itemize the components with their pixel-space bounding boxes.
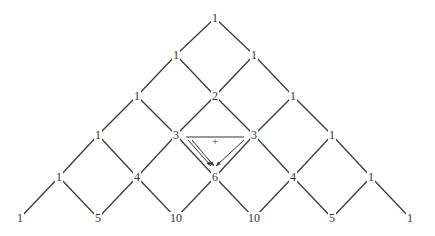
lattice-edge (98, 135, 137, 177)
sum-arrow (188, 140, 211, 166)
plus-operator: + (212, 135, 218, 147)
triangle-number: 4 (133, 171, 141, 183)
pascal-triangle-diagram: 11112113311464115101051 + (0, 0, 435, 236)
triangle-number: 1 (250, 49, 258, 61)
triangle-number: 1 (289, 90, 297, 102)
triangle-number: 1 (406, 212, 414, 224)
lattice-edge (332, 177, 371, 218)
lattice-edge (254, 135, 293, 177)
lattice-edge (59, 135, 98, 177)
lattice-edge (293, 135, 332, 177)
triangle-lattice-lines (0, 0, 435, 236)
triangle-number: 6 (211, 171, 219, 183)
lattice-edge (137, 96, 176, 135)
sum-arrow (216, 140, 244, 166)
triangle-number: 1 (16, 212, 24, 224)
lattice-edge (215, 135, 254, 177)
triangle-number: 10 (169, 212, 183, 224)
lattice-edge (98, 96, 137, 135)
lattice-edge (20, 177, 59, 218)
triangle-number: 1 (367, 171, 375, 183)
lattice-edge (293, 96, 332, 135)
lattice-edge (59, 177, 98, 218)
lattice-edge (98, 177, 137, 218)
lattice-edge (293, 177, 332, 218)
triangle-number: 5 (94, 212, 102, 224)
lattice-edge (371, 177, 410, 218)
triangle-number: 1 (133, 90, 141, 102)
triangle-number: 1 (172, 49, 180, 61)
lattice-edge (254, 55, 293, 96)
lattice-edge (176, 96, 215, 135)
lattice-edge (176, 135, 215, 177)
triangle-number: 2 (211, 90, 219, 102)
lattice-edge (215, 18, 254, 55)
lattice-edge (332, 135, 371, 177)
lattice-edge (215, 96, 254, 135)
lattice-edge (176, 55, 215, 96)
sum-arrow (192, 140, 214, 166)
triangle-number: 3 (250, 129, 258, 141)
lattice-edge (137, 55, 176, 96)
triangle-number: 1 (328, 129, 336, 141)
triangle-number: 1 (211, 12, 219, 24)
lattice-edge (137, 135, 176, 177)
lattice-edge (215, 55, 254, 96)
triangle-number: 3 (172, 129, 180, 141)
lattice-edge (176, 18, 215, 55)
triangle-number: 5 (328, 212, 336, 224)
triangle-number: 1 (94, 129, 102, 141)
triangle-number: 10 (247, 212, 261, 224)
triangle-number: 4 (289, 171, 297, 183)
triangle-number: 1 (55, 171, 63, 183)
lattice-edge (254, 96, 293, 135)
